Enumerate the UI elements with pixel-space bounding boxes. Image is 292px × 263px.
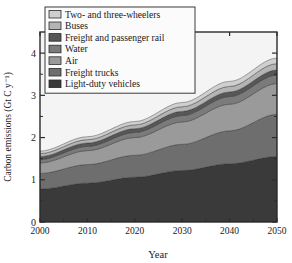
y-axis-title: Carbon emissions (Gt C y⁻¹) — [3, 72, 14, 182]
x-tick-label: 2030 — [173, 226, 192, 236]
legend-swatch — [49, 10, 61, 18]
legend-label: Water — [65, 43, 88, 54]
legend-swatch — [49, 80, 61, 88]
legend-item-water: Water — [49, 43, 88, 54]
legend-swatch — [49, 34, 61, 42]
legend-label: Two- and three-wheelers — [65, 9, 160, 20]
y-tick-label: 4 — [31, 48, 36, 59]
legend-label: Light-duty vehicles — [65, 78, 140, 89]
legend-swatch — [49, 57, 61, 65]
legend-label: Freight trucks — [65, 67, 119, 78]
legend-swatch — [49, 22, 61, 30]
x-axis-title: Year — [148, 249, 168, 260]
x-tick-label: 2000 — [31, 226, 50, 236]
carbon-emissions-stacked-area-chart: 200020102020203020402050 01234 Year Carb… — [0, 0, 292, 263]
x-tick-label: 2020 — [125, 226, 144, 236]
y-tick-label: 1 — [31, 174, 36, 185]
legend-swatch — [49, 45, 61, 53]
legend-label: Freight and passenger rail — [65, 32, 165, 43]
legend-swatch — [49, 68, 61, 76]
y-tick-label: 3 — [31, 90, 36, 101]
x-tick-label: 2040 — [220, 226, 239, 236]
x-tick-label: 2010 — [78, 226, 97, 236]
y-tick-label: 0 — [31, 217, 36, 228]
legend-item-freight-and-passenger-rail: Freight and passenger rail — [49, 32, 165, 43]
legend-label: Air — [65, 55, 79, 66]
x-tick-label: 2050 — [268, 226, 287, 236]
legend-item-freight-trucks: Freight trucks — [49, 67, 119, 78]
legend-item-buses: Buses — [49, 20, 88, 31]
y-tick-label: 2 — [31, 132, 36, 143]
legend-item-two-and-three-wheelers: Two- and three-wheelers — [49, 9, 160, 20]
legend-label: Buses — [65, 20, 88, 31]
chart-legend: Two- and three-wheelersBusesFreight and … — [45, 7, 195, 93]
